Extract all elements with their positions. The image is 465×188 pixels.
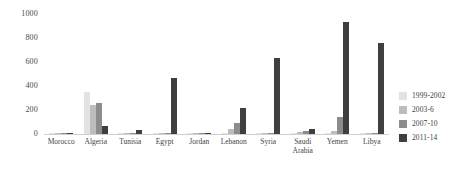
- bar: [343, 22, 349, 134]
- y-axis-tick-label: 1000: [21, 10, 38, 18]
- bar-group-bars: [286, 14, 321, 134]
- bar: [102, 126, 108, 134]
- y-axis-tick-label: 600: [25, 58, 38, 66]
- bar: [171, 78, 177, 134]
- bar: [205, 133, 211, 134]
- bar-group: Lebanon: [217, 14, 252, 134]
- bar: [67, 133, 73, 134]
- bar-group-bars: [217, 14, 252, 134]
- bar: [240, 108, 246, 134]
- bar-group-bars: [251, 14, 286, 134]
- chart-legend: 1999-20022003-62007-102011-14: [399, 89, 465, 145]
- x-axis-category-label: Egypt: [148, 138, 183, 147]
- bar: [274, 58, 280, 134]
- bar-group-bars: [148, 14, 183, 134]
- bar: [378, 43, 384, 134]
- bar-group-bars: [320, 14, 355, 134]
- y-axis-tick-label: 800: [25, 34, 38, 42]
- bar: [136, 130, 142, 134]
- x-axis-category-label: Morocco: [44, 138, 79, 147]
- x-axis-category-label: Libya: [355, 138, 390, 147]
- legend-swatch-icon: [399, 120, 407, 128]
- bar-group: Saudi Arabia: [286, 14, 321, 134]
- legend-item[interactable]: 1999-2002: [399, 89, 465, 102]
- bar-group: Syria: [251, 14, 286, 134]
- bar-group-bars: [113, 14, 148, 134]
- x-axis-category-label: Jordan: [182, 138, 217, 147]
- bar-group: Jordan: [182, 14, 217, 134]
- bar-group: Morocco: [44, 14, 79, 134]
- bar-group: Algeria: [79, 14, 114, 134]
- bar: [309, 129, 315, 134]
- y-axis-tick-label: 0: [34, 130, 38, 138]
- bar-group: Tunisia: [113, 14, 148, 134]
- bar-group: Egypt: [148, 14, 183, 134]
- y-axis-tick-label: 400: [25, 82, 38, 90]
- x-axis-category-label: Saudi Arabia: [286, 138, 321, 155]
- plot-area: MoroccoAlgeriaTunisiaEgyptJordanLebanonS…: [44, 14, 389, 134]
- bar-group: Yemen: [320, 14, 355, 134]
- legend-item-label: 2003-6: [412, 106, 434, 114]
- legend-item[interactable]: 2003-6: [399, 103, 465, 116]
- y-axis-tick-label: 200: [25, 106, 38, 114]
- legend-item-label: 2007-10: [412, 120, 438, 128]
- x-axis-category-label: Tunisia: [113, 138, 148, 147]
- bar-group-bars: [44, 14, 79, 134]
- x-axis-category-label: Yemen: [320, 138, 355, 147]
- bar-chart: 02004006008001000 MoroccoAlgeriaTunisiaE…: [0, 0, 465, 188]
- x-axis-category-label: Lebanon: [217, 138, 252, 147]
- x-axis-category-label: Algeria: [79, 138, 114, 147]
- bar-group-bars: [355, 14, 390, 134]
- x-axis-baseline: [44, 134, 389, 135]
- legend-item-label: 1999-2002: [412, 92, 445, 100]
- legend-swatch-icon: [399, 92, 407, 100]
- bar-group-bars: [182, 14, 217, 134]
- x-axis-category-label: Syria: [251, 138, 286, 147]
- bar-group: Libya: [355, 14, 390, 134]
- legend-item[interactable]: 2011-14: [399, 131, 465, 144]
- legend-swatch-icon: [399, 106, 407, 114]
- legend-item-label: 2011-14: [412, 134, 437, 142]
- bar-group-bars: [79, 14, 114, 134]
- legend-item[interactable]: 2007-10: [399, 117, 465, 130]
- legend-swatch-icon: [399, 134, 407, 142]
- y-axis: 02004006008001000: [0, 0, 42, 188]
